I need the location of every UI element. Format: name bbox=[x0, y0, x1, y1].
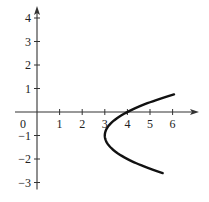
y-tick-label: 4 bbox=[25, 11, 31, 25]
x-tick-label: 1 bbox=[57, 117, 63, 131]
x-tick-label: 2 bbox=[79, 117, 85, 131]
x-tick-label: 4 bbox=[124, 117, 130, 131]
axes bbox=[15, 6, 199, 190]
y-tick-label: 3 bbox=[25, 35, 31, 49]
origin-label: 0 bbox=[20, 117, 26, 131]
y-tick-label: 2 bbox=[25, 58, 31, 72]
ticks bbox=[34, 18, 173, 183]
x-tick-label: 6 bbox=[170, 117, 176, 131]
y-tick-label: 1 bbox=[25, 82, 31, 96]
tick-labels: 1234564321−1−2−30 bbox=[18, 11, 175, 190]
parabola-curve bbox=[105, 94, 174, 173]
y-tick-label: −2 bbox=[18, 152, 31, 166]
x-tick-label: 5 bbox=[147, 117, 153, 131]
y-tick-label: −3 bbox=[18, 176, 31, 190]
chart: 1234564321−1−2−30 bbox=[0, 0, 209, 202]
